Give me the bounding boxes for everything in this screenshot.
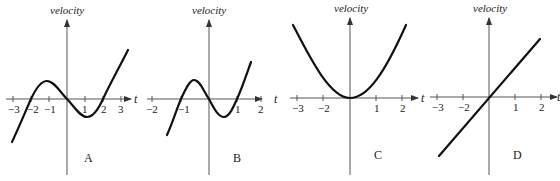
tick-label: −1 <box>44 103 56 115</box>
tick-label: 1 <box>374 102 380 114</box>
tick-label: −3 <box>432 101 444 113</box>
graph-a: −3 −2 −1 1 2 3 t velocity A <box>6 4 138 175</box>
tick-label: 1 <box>82 103 88 115</box>
tick-label: −2 <box>146 103 158 115</box>
velocity-axis-label: velocity <box>192 4 226 16</box>
tick-label: 2 <box>400 102 406 114</box>
panel-label: A <box>84 151 93 165</box>
velocity-axis-label: velocity <box>50 4 84 16</box>
velocity-axis-label: velocity <box>334 2 368 14</box>
tick-label: 1 <box>235 103 241 115</box>
t-axis-label: t <box>274 92 278 106</box>
graph-c: −3 −2 1 2 t velocity C <box>290 2 425 175</box>
tick-label: 1 <box>513 101 519 113</box>
velocity-axis-label: velocity <box>473 2 507 14</box>
t-axis-label: t <box>134 92 138 106</box>
tick-label: −3 <box>292 102 304 114</box>
tick-label: −2 <box>458 101 470 113</box>
graph-b: −2 −1 1 2 t velocity B <box>146 4 278 175</box>
panel-label: C <box>374 148 382 162</box>
tick-label: 2 <box>101 103 107 115</box>
panel-label: B <box>233 151 241 165</box>
tick-label: −3 <box>8 103 20 115</box>
panel-label: D <box>513 148 522 162</box>
t-axis-label: t <box>421 91 425 105</box>
graph-d: −3 −2 1 2 t velocity D <box>430 2 560 175</box>
velocity-graphs-figure: −3 −2 −1 1 2 3 t velocity A −2 −1 1 2 t … <box>0 0 560 181</box>
tick-label: 3 <box>118 103 124 115</box>
tick-label: −2 <box>318 102 330 114</box>
tick-label: 2 <box>258 103 264 115</box>
tick-label: 2 <box>539 101 545 113</box>
velocity-curve <box>12 50 128 142</box>
